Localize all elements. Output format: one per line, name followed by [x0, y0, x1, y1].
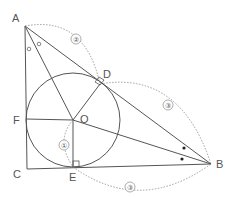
angle-mark-b2: [180, 157, 183, 160]
bisector-ao: [25, 26, 73, 120]
label-ad: ②: [73, 36, 79, 43]
arc-eb: [73, 164, 211, 190]
angle-mark-a2: [37, 42, 41, 46]
point-label-a: A: [12, 12, 20, 24]
label-db: ③: [165, 102, 171, 109]
bisector-ob: [73, 120, 211, 164]
label-eb: ③: [127, 184, 133, 191]
point-label-f: F: [13, 114, 20, 126]
angle-mark-a1: [27, 47, 31, 51]
point-label-e: E: [69, 171, 76, 183]
geometry-diagram: ② ③ ③ ① A B C D E F O: [0, 0, 237, 200]
angle-mark-b1: [182, 146, 185, 149]
radius-of: [26, 119, 73, 120]
point-label-d: D: [103, 68, 111, 80]
point-label-b: B: [216, 158, 223, 170]
right-angle-e: [73, 161, 79, 167]
point-label-o: O: [80, 113, 89, 125]
label-oe: ①: [61, 142, 67, 149]
point-label-c: C: [13, 168, 21, 180]
